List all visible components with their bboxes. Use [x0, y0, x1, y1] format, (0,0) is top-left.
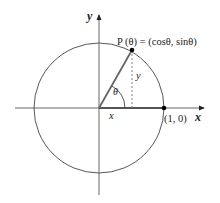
y-axis-label: y	[85, 9, 93, 23]
radius-line	[99, 50, 132, 108]
point-p-label: P (θ) = (cosθ, sinθ)	[117, 36, 197, 48]
point-p	[130, 48, 135, 53]
theta-label: θ	[113, 86, 118, 97]
unit-circle-diagram: y x P (θ) = (cosθ, sinθ) (1, 0) θ x y	[0, 0, 220, 203]
x-leg-label: x	[108, 110, 114, 121]
y-leg-label: y	[135, 70, 141, 81]
point-one-zero-label: (1, 0)	[164, 113, 187, 125]
x-axis-label: x	[194, 110, 201, 124]
point-one-zero	[162, 106, 167, 111]
